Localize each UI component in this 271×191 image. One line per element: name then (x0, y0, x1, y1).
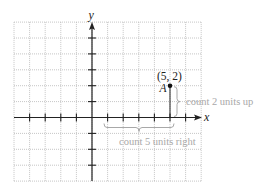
vertical-count-label: count 2 units up (186, 96, 253, 107)
horizontal-count-label: count 5 units right (119, 136, 196, 147)
point-name-label: A (159, 82, 168, 94)
x-axis-label: x (203, 110, 210, 124)
coordinate-plane-figure: x y (5, 2) A count 2 units up count 5 un… (0, 0, 271, 191)
grid (14, 22, 201, 181)
y-axis-label: y (88, 8, 95, 22)
point-a-marker (168, 83, 173, 88)
annotations (104, 83, 180, 131)
